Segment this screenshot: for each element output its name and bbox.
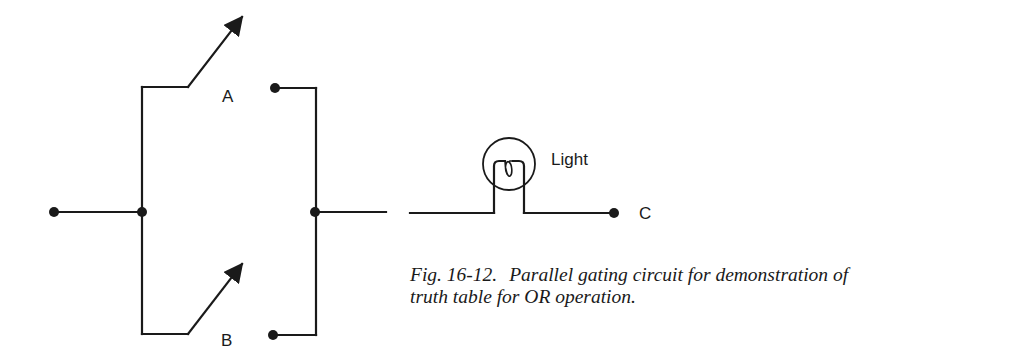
switch-b-contact-dot (268, 330, 278, 340)
switch-a-blade (188, 17, 242, 87)
figure-number: Fig. 16-12. (410, 264, 497, 285)
caption-text-1: Parallel gating circuit for demonstratio… (509, 264, 848, 285)
switch-a-label: A (222, 88, 233, 105)
switch-b-blade (188, 264, 242, 334)
caption-line-2: truth table for OR operation. (410, 286, 1010, 308)
lamp-label: Light (551, 151, 588, 168)
left-junction-dot (137, 207, 147, 217)
output-terminal-dot (609, 208, 619, 218)
caption-line-1: Fig. 16-12.Parallel gating circuit for d… (410, 264, 1010, 286)
lamp-bulb-icon (483, 138, 535, 190)
lamp-filament (505, 161, 513, 176)
switch-a-contact-dot (270, 83, 280, 93)
input-terminal-dot (49, 207, 59, 217)
output-label: C (639, 205, 651, 222)
switch-b-label: B (221, 332, 232, 349)
figure-caption: Fig. 16-12.Parallel gating circuit for d… (410, 264, 1010, 308)
figure: A B Light C Fig. 16-12.Parallel gating c… (0, 0, 1021, 360)
right-junction-dot (310, 207, 320, 217)
